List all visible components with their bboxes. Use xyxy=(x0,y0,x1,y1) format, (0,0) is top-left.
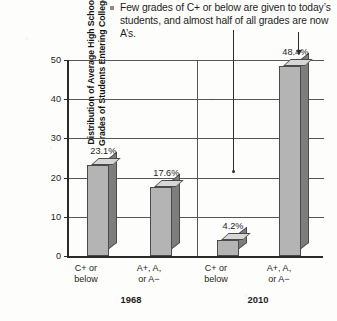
caption-text: Few grades of C+ or below are given to t… xyxy=(110,1,336,40)
y-axis-tick xyxy=(64,99,69,100)
bar-2010-c-below: 4.2% xyxy=(217,233,247,256)
bar-1968-a-range: 17.6% xyxy=(150,180,180,256)
x-category-line1: C+ or xyxy=(54,263,118,274)
y-axis-label: 40 xyxy=(51,94,61,104)
chart-caption: Few grades of C+ or below are given to t… xyxy=(110,1,336,40)
y-axis-label: 50 xyxy=(51,55,61,65)
bar-1968-c-below: 23.1% xyxy=(87,158,117,256)
y-axis-tick xyxy=(64,60,69,61)
y-axis-tick xyxy=(64,178,69,179)
bar-side-face xyxy=(301,53,309,249)
x-category-label-1968-c-below: C+ or below xyxy=(54,263,118,284)
bar-front-face xyxy=(87,165,109,256)
y-axis-label: 0 xyxy=(56,251,61,261)
bar-front-face xyxy=(150,187,172,256)
square-bullet-icon xyxy=(110,6,114,10)
x-category-line1: C+ or xyxy=(184,263,248,274)
x-category-line2: below xyxy=(54,274,118,285)
x-group-label-1968: 1968 xyxy=(91,294,171,305)
leader-arrow-48-4 xyxy=(296,50,302,55)
y-axis-tick xyxy=(64,256,69,257)
bar-front-face xyxy=(217,240,239,256)
y-axis-tick xyxy=(64,138,69,139)
bar-value-label: 4.2% xyxy=(223,221,244,231)
y-axis-tick xyxy=(64,217,69,218)
x-group-label-2010: 2010 xyxy=(218,294,298,305)
bar-value-label: 17.6% xyxy=(153,168,179,178)
group-divider xyxy=(197,60,198,256)
bar-front-face xyxy=(279,66,301,256)
y-axis-label: 20 xyxy=(51,173,61,183)
leader-dot-4-2 xyxy=(232,170,235,173)
x-category-line1: A+, A, xyxy=(247,263,311,274)
y-axis-label: 30 xyxy=(51,133,61,143)
figure-root: Few grades of C+ or below are given to t… xyxy=(0,0,337,321)
plot-area: 0102030405023.1%17.6%4.2%48.4% xyxy=(67,60,323,258)
x-category-line2: or A− xyxy=(247,274,311,285)
bar-value-label: 23.1% xyxy=(90,146,116,156)
leader-line-48-4 xyxy=(298,32,299,51)
leader-line-4-2 xyxy=(233,30,234,172)
x-category-label-2010-c-below: C+ or below xyxy=(184,263,248,284)
x-category-line2: below xyxy=(184,274,248,285)
x-category-label-2010-a-range: A+, A, or A− xyxy=(247,263,311,284)
y-axis-label: 10 xyxy=(51,212,61,222)
x-category-label-1968-a-range: A+, A, or A− xyxy=(117,263,181,284)
x-category-line1: A+, A, xyxy=(117,263,181,274)
x-category-line2: or A− xyxy=(117,274,181,285)
bar-side-face xyxy=(109,152,117,249)
bar-2010-a-range: 48.4% xyxy=(279,59,309,256)
